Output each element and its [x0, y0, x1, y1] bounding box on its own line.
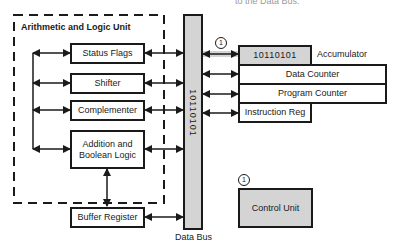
addition-boolean-logic-box: Addition and Boolean Logic	[70, 130, 145, 169]
status-flags-label: Status Flags	[82, 48, 132, 59]
shifter-box: Shifter	[70, 73, 145, 94]
complementer-label: Complementer	[78, 105, 137, 116]
accumulator-box: 10110101	[238, 45, 312, 66]
instruction-reg-box: Instruction Reg	[238, 102, 312, 123]
data-counter-label: Data Counter	[286, 69, 340, 80]
step-1-marker-bus: 1	[215, 37, 227, 49]
control-unit-box: Control Unit	[238, 188, 313, 228]
accumulator-value: 10110101	[253, 50, 296, 61]
accumulator-label: Accumulator	[317, 49, 367, 59]
buffer-register-box: Buffer Register	[70, 207, 145, 228]
status-flags-box: Status Flags	[70, 43, 145, 64]
data-counter-box: Data Counter	[238, 64, 387, 85]
control-unit-label: Control Unit	[252, 203, 300, 214]
program-counter-box: Program Counter	[238, 83, 387, 104]
complementer-box: Complementer	[70, 100, 145, 121]
addition-boolean-logic-label: Addition and Boolean Logic	[78, 139, 137, 161]
instruction-reg-label: Instruction Reg	[245, 107, 306, 118]
data-bus-label: Data Bus	[175, 232, 212, 242]
shifter-label: Shifter	[94, 78, 120, 89]
alu-title: Arithmetic and Logic Unit	[21, 22, 131, 32]
step-1-marker-control: 1	[238, 174, 250, 186]
program-counter-label: Program Counter	[278, 88, 347, 99]
buffer-register-label: Buffer Register	[78, 212, 138, 223]
data-bus-value: 10110101	[188, 78, 198, 148]
